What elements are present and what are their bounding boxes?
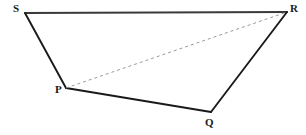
vertex-label-s: S <box>13 3 19 14</box>
figure-canvas <box>0 0 306 135</box>
vertex-label-r: R <box>290 3 298 14</box>
edge-s-p <box>25 13 66 88</box>
edge-s-r <box>25 12 287 13</box>
diagonal-p-r <box>66 12 287 88</box>
vertex-label-q: Q <box>205 117 214 128</box>
edge-p-q <box>66 88 211 112</box>
edge-q-r <box>211 12 287 112</box>
geometry-figure: S R Q P <box>0 0 306 135</box>
vertex-label-p: P <box>55 84 62 95</box>
